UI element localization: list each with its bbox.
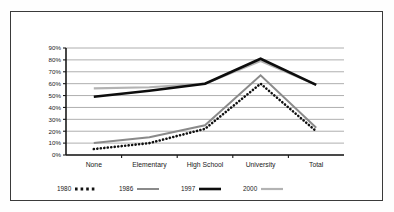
y-tick-label: 70% (49, 68, 62, 75)
gridlines (66, 48, 344, 155)
x-category-label: University (246, 161, 276, 169)
legend-label-1986: 1986 (119, 185, 134, 192)
y-tick-label: 80% (49, 56, 62, 63)
x-category-label: Total (309, 161, 324, 168)
y-tick-label: 10% (49, 139, 62, 146)
y-tick-label: 0% (52, 151, 61, 158)
y-tick-label: 40% (49, 104, 62, 111)
chart-figure: 0%10%20%30%40%50%60%70%80%90% NoneElemen… (0, 0, 394, 212)
x-category-label: High School (187, 161, 224, 169)
data-series-group (94, 59, 316, 149)
x-axis-category-labels: NoneElementaryHigh SchoolUniversityTotal (86, 161, 324, 169)
legend-label-1980: 1980 (57, 185, 72, 192)
legend-label-2000: 2000 (243, 185, 258, 192)
legend-label-1997: 1997 (181, 185, 196, 192)
line-chart: 0%10%20%30%40%50%60%70%80%90% NoneElemen… (0, 0, 394, 212)
y-axis-ticks: 0%10%20%30%40%50%60%70%80%90% (49, 44, 66, 158)
series-line (94, 75, 316, 143)
y-tick-label: 90% (49, 44, 62, 51)
y-tick-label: 20% (49, 128, 62, 135)
x-category-label: None (86, 161, 102, 168)
x-category-label: Elementary (132, 161, 167, 169)
y-tick-label: 30% (49, 116, 62, 123)
y-tick-label: 60% (49, 80, 62, 87)
series-line (94, 59, 316, 97)
y-tick-label: 50% (49, 92, 62, 99)
chart-legend: 1980198619972000 (57, 185, 283, 192)
